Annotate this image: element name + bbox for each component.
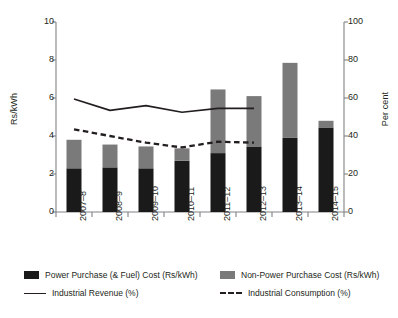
bar-segment-non-power-purchase bbox=[319, 121, 334, 128]
legend-label-industrial-revenue: Industrial Revenue (%) bbox=[52, 289, 138, 298]
legend-label-industrial-consumption: Industrial Consumption (%) bbox=[248, 289, 351, 298]
x-axis-category-label: 2010–11 bbox=[186, 187, 196, 221]
legend-item-industrial-consumption[interactable]: Industrial Consumption (%) bbox=[220, 289, 351, 298]
legend-item-power-purchase[interactable]: Power Purchase (& Fuel) Cost (Rs/kWh) bbox=[24, 271, 220, 280]
bar-segment-non-power-purchase bbox=[211, 89, 226, 153]
y-axis-right-tick-label: 40 bbox=[348, 130, 378, 140]
chart-legend: Power Purchase (& Fuel) Cost (Rs/kWh) No… bbox=[24, 266, 384, 302]
x-axis-category-label: 2009–10 bbox=[150, 186, 160, 221]
line-series-industrial-revenue bbox=[74, 99, 254, 112]
legend-item-industrial-revenue[interactable]: Industrial Revenue (%) bbox=[24, 289, 220, 298]
legend-label-power-purchase: Power Purchase (& Fuel) Cost (Rs/kWh) bbox=[45, 271, 198, 280]
x-axis-category-label: 2007–8 bbox=[78, 191, 88, 221]
legend-row-2: Industrial Revenue (%) Industrial Consum… bbox=[24, 284, 384, 302]
y-axis-left-tick-label: 0 bbox=[24, 206, 54, 216]
legend-swatch-power-purchase bbox=[24, 271, 39, 279]
y-axis-right-tick-label: 0 bbox=[348, 206, 378, 216]
bar-segment-non-power-purchase bbox=[139, 146, 154, 168]
bar-segment-non-power-purchase bbox=[67, 140, 82, 169]
x-axis-category-label: 2011–12 bbox=[222, 187, 232, 221]
y-axis-right-tick-label: 80 bbox=[348, 54, 378, 64]
legend-label-non-power-purchase: Non-Power Purchase Cost (Rs/kWh) bbox=[241, 271, 379, 280]
legend-item-non-power-purchase[interactable]: Non-Power Purchase Cost (Rs/kWh) bbox=[220, 271, 379, 280]
y-axis-left-tick-label: 2 bbox=[24, 168, 54, 178]
x-axis-category-label: 2012–13 bbox=[258, 186, 268, 221]
y-axis-left-ticks bbox=[52, 22, 56, 212]
y-axis-left-tick-label: 4 bbox=[24, 130, 54, 140]
legend-row-1: Power Purchase (& Fuel) Cost (Rs/kWh) No… bbox=[24, 266, 384, 284]
line-series-industrial-consumption bbox=[74, 129, 254, 147]
legend-line-industrial-revenue bbox=[24, 293, 46, 294]
y-axis-left-tick-label: 10 bbox=[24, 16, 54, 26]
bar-segment-non-power-purchase bbox=[103, 145, 118, 168]
legend-line-industrial-consumption bbox=[220, 292, 242, 294]
y-axis-right-tick-label: 60 bbox=[348, 92, 378, 102]
legend-swatch-non-power-purchase bbox=[220, 271, 235, 279]
chart-container: Rs/kWh Per cent 02468100204060801002007–… bbox=[0, 0, 398, 318]
x-axis-category-label: 2014–15 bbox=[330, 186, 340, 221]
x-axis-category-label: 2013–14 bbox=[294, 186, 304, 221]
bar-segment-non-power-purchase bbox=[247, 96, 262, 146]
y-axis-right-tick-label: 20 bbox=[348, 168, 378, 178]
y-axis-left-tick-label: 6 bbox=[24, 92, 54, 102]
y-axis-right-title: Per cent bbox=[380, 79, 390, 139]
bar-segment-non-power-purchase bbox=[175, 148, 190, 160]
y-axis-right-ticks bbox=[344, 22, 348, 212]
bar-segment-non-power-purchase bbox=[283, 63, 298, 138]
y-axis-left-tick-label: 8 bbox=[24, 54, 54, 64]
x-axis-category-label: 2008–9 bbox=[114, 191, 124, 221]
y-axis-right-tick-label: 100 bbox=[348, 16, 378, 26]
y-axis-left-title: Rs/kWh bbox=[9, 79, 19, 139]
